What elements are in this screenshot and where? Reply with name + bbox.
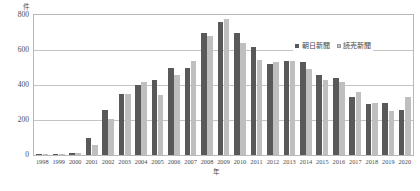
x-tick-label: 2007 [184, 158, 197, 165]
legend-label: 朝日新聞 [302, 42, 330, 50]
bar [108, 119, 114, 155]
y-tick-label: 600 [18, 46, 29, 54]
bar [356, 92, 362, 155]
bar [234, 33, 240, 156]
year-group [133, 15, 149, 155]
x-tick-label: 2013 [283, 158, 296, 165]
bar [185, 68, 191, 156]
bar [257, 60, 263, 155]
bar [399, 110, 405, 155]
year-group [199, 15, 215, 155]
bar [300, 62, 306, 155]
year-group [331, 15, 347, 155]
year-group [248, 15, 264, 155]
bar [251, 47, 257, 156]
bar [382, 103, 388, 156]
year-group [364, 15, 380, 155]
bar [174, 75, 180, 156]
bar [102, 110, 108, 156]
bar [372, 103, 378, 155]
x-tick-label: 2008 [201, 158, 214, 165]
x-tick-label: 2003 [118, 158, 131, 165]
bar [366, 104, 372, 155]
bar [75, 153, 81, 155]
bar [339, 82, 345, 156]
year-group [166, 15, 182, 155]
bar [36, 154, 42, 155]
bar [273, 62, 279, 155]
bar [135, 85, 141, 155]
bar [86, 138, 92, 155]
x-tick-label: 2009 [217, 158, 230, 165]
y-tick-label: 800 [18, 11, 29, 19]
x-tick-label: 2015 [316, 158, 329, 165]
year-group [298, 15, 314, 155]
legend-swatch-icon [337, 44, 341, 48]
x-tick-label: 2019 [382, 158, 395, 165]
x-tick-label: 2010 [234, 158, 247, 165]
x-tick-label: 2005 [151, 158, 164, 165]
x-tick-label: 2018 [366, 158, 379, 165]
y-tick-label: 200 [18, 116, 29, 124]
bar [405, 97, 411, 155]
bar [224, 19, 230, 156]
bar [333, 78, 339, 155]
bar [119, 94, 125, 155]
legend-entry: 読売新聞 [337, 42, 372, 50]
bar [92, 145, 98, 155]
bar [53, 154, 59, 155]
year-group [34, 15, 50, 155]
bar-chart: 件 8006004002000 年 1998199920002001200220… [0, 0, 420, 191]
bar [201, 33, 207, 156]
bar [306, 69, 312, 155]
year-group [265, 15, 281, 155]
x-tick-label: 1999 [52, 158, 65, 165]
x-tick-label: 2002 [102, 158, 115, 165]
year-group [347, 15, 363, 155]
year-group [116, 15, 132, 155]
legend: 朝日新聞読売新聞 [293, 41, 373, 51]
bar [389, 111, 395, 155]
bar [207, 36, 213, 155]
year-group [50, 15, 66, 155]
x-tick-label: 2001 [85, 158, 98, 165]
bar [267, 64, 273, 155]
y-tick-label: 400 [18, 81, 29, 89]
year-group [232, 15, 248, 155]
bar [290, 61, 296, 155]
x-tick-label: 2004 [135, 158, 148, 165]
bar [218, 22, 224, 155]
year-group [83, 15, 99, 155]
bar [59, 154, 65, 155]
bar [141, 82, 147, 156]
year-group [67, 15, 83, 155]
year-group [397, 15, 413, 155]
year-group [182, 15, 198, 155]
x-tick-label: 2016 [333, 158, 346, 165]
x-tick-label: 2014 [300, 158, 313, 165]
bars-layer [34, 15, 413, 155]
bar [191, 61, 197, 156]
bar [69, 153, 75, 155]
bar [316, 75, 322, 155]
bar [152, 80, 158, 155]
bar [125, 94, 131, 155]
bar [168, 68, 174, 156]
year-group [100, 15, 116, 155]
x-axis: 年 19981999200020012002200320042005200620… [0, 156, 420, 191]
x-tick-label: 2017 [349, 158, 362, 165]
legend-swatch-icon [295, 44, 299, 48]
bar [43, 154, 49, 155]
year-group [149, 15, 165, 155]
year-group [380, 15, 396, 155]
x-tick-label: 2012 [267, 158, 280, 165]
legend-entry: 朝日新聞 [295, 42, 330, 50]
bar [323, 80, 329, 155]
bar [284, 61, 290, 156]
x-tick-label: 1998 [36, 158, 49, 165]
x-tick-label: 2011 [250, 158, 262, 165]
x-axis-title: 年 [213, 168, 220, 175]
bar [240, 43, 246, 155]
year-group [215, 15, 231, 155]
x-tick-label: 2006 [168, 158, 181, 165]
